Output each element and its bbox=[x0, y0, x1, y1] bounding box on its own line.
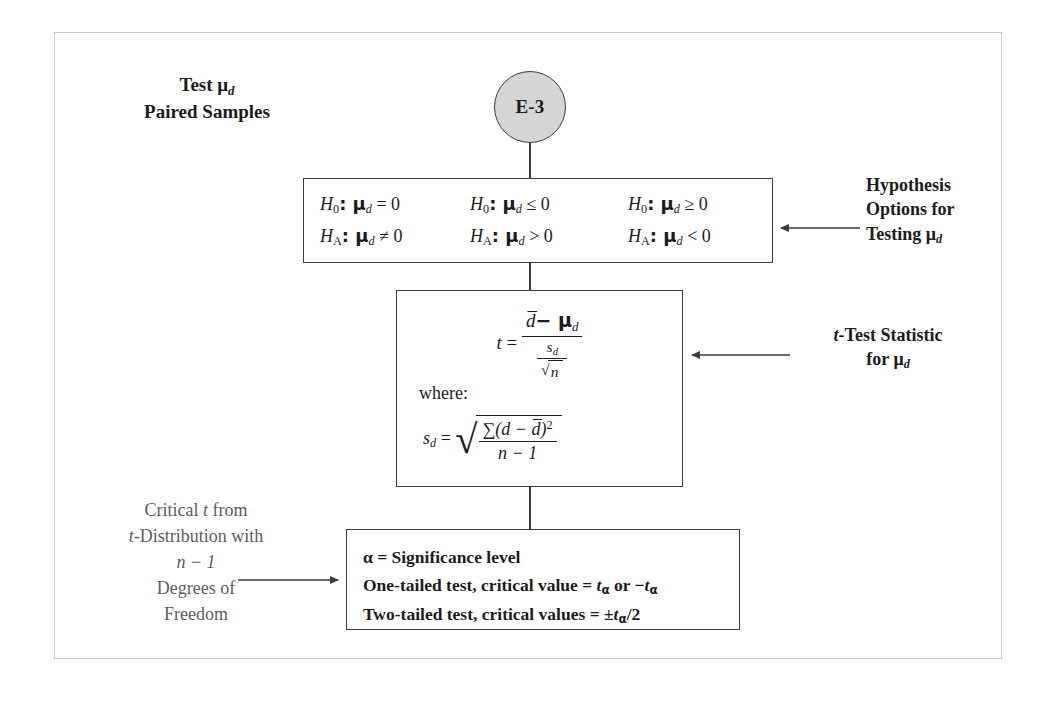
h-symbol: H bbox=[628, 194, 641, 214]
two-tailed-line: Two-tailed test, critical values = ±tα/2 bbox=[363, 600, 723, 629]
t-symbol: t bbox=[497, 332, 502, 353]
critical-annotation-line2: t-Distribution with bbox=[72, 524, 320, 550]
sd-fraction: ∑(d − d̅)2 n − 1 bbox=[479, 418, 557, 464]
h-sub: A bbox=[641, 234, 650, 248]
connector-hypothesis-to-formula bbox=[529, 262, 531, 292]
flow-title-mu-sub: d bbox=[228, 83, 234, 98]
hypothesis-column-two-tailed: H0: μd = 0 HA: μd ≠ 0 bbox=[320, 189, 448, 251]
critical-annotation-line1: Critical t from bbox=[72, 498, 320, 524]
start-node-circle[interactable]: E-3 bbox=[494, 71, 566, 143]
h-symbol: H bbox=[470, 226, 483, 246]
power-two: 2 bbox=[547, 418, 553, 432]
h-relation: > 0 bbox=[525, 226, 553, 246]
equals-sign: = bbox=[441, 428, 451, 448]
flow-title-line1: Test μd bbox=[92, 72, 322, 99]
h-sub: A bbox=[483, 234, 492, 248]
mu-sub: d bbox=[572, 319, 578, 334]
hypothesis-annotation-line1: Hypothesis bbox=[866, 173, 1016, 197]
testing-mu: Testing μ bbox=[866, 224, 936, 244]
flow-title-mu: Test μ bbox=[179, 74, 228, 95]
one-tailed-line: One-tailed test, critical value = tα or … bbox=[363, 571, 723, 600]
sd-symbol: s bbox=[423, 428, 430, 448]
t-fraction: d̅− μd sd √n bbox=[522, 309, 582, 381]
connector-formula-to-critical bbox=[529, 486, 531, 531]
sigma-expression: ∑(d − d̅) bbox=[483, 419, 547, 439]
divided-by-two: /2 bbox=[627, 604, 641, 624]
sd-sub: d bbox=[430, 436, 436, 450]
critical-annotation-line5: Freedom bbox=[72, 602, 320, 628]
se-numerator: sd bbox=[537, 338, 567, 359]
alt-hypothesis-1: HA: μd ≠ 0 bbox=[320, 221, 448, 252]
se-fraction: sd √n bbox=[537, 338, 567, 381]
null-hypothesis-1: H0: μd = 0 bbox=[320, 189, 448, 220]
critical-annotation: Critical t from t-Distribution with n − … bbox=[72, 498, 320, 628]
h-relation: ≤ 0 bbox=[522, 194, 550, 214]
hypothesis-annotation-line2: Options for bbox=[866, 197, 1016, 221]
flow-title: Test μd Paired Samples bbox=[92, 72, 322, 124]
two-tailed-text: Two-tailed test, critical values = ± bbox=[363, 604, 614, 624]
t-fraction-numerator: d̅− μd bbox=[522, 309, 582, 337]
hypothesis-column-upper-tailed: H0: μd ≤ 0 HA: μd > 0 bbox=[456, 189, 598, 251]
critical-value-box[interactable]: α = Significance level One-tailed test, … bbox=[346, 529, 740, 630]
sd-denominator: n − 1 bbox=[479, 442, 557, 464]
start-node-label: E-3 bbox=[515, 96, 544, 118]
tstat-annotation: t-Test Statistic for μd bbox=[798, 323, 978, 374]
tstat-annotation-line2: for μd bbox=[798, 347, 978, 373]
alpha-sub: α bbox=[601, 583, 609, 597]
h-body: : μ bbox=[492, 225, 519, 246]
t-statistic-formula: t = d̅− μd sd √n bbox=[397, 309, 682, 381]
significance-level-line: α = Significance level bbox=[363, 543, 723, 571]
radical-icon: √ bbox=[455, 426, 477, 454]
s-sub: d bbox=[553, 346, 558, 357]
h-body: : μ bbox=[342, 225, 369, 246]
h-symbol: H bbox=[320, 194, 333, 214]
h-body: : μ bbox=[650, 225, 677, 246]
mu-sub: d bbox=[904, 358, 910, 372]
sd-formula: sd = √ ∑(d − d̅)2 n − 1 bbox=[423, 415, 562, 464]
h-relation: < 0 bbox=[683, 226, 711, 246]
for-mu: for μ bbox=[866, 349, 903, 369]
critical-annotation-df: n − 1 bbox=[72, 550, 320, 576]
distribution-text: -Distribution with bbox=[134, 526, 264, 546]
alt-hypothesis-2: HA: μd > 0 bbox=[470, 221, 598, 252]
or-negative: or − bbox=[610, 575, 645, 595]
equals-sign: = bbox=[507, 332, 518, 353]
h-relation: = 0 bbox=[372, 194, 400, 214]
sd-numerator: ∑(d − d̅)2 bbox=[479, 418, 557, 442]
minus-mu: − μ bbox=[536, 309, 573, 331]
null-hypothesis-2: H0: μd ≤ 0 bbox=[470, 189, 598, 220]
h-sub: A bbox=[333, 234, 342, 248]
t-fraction-denominator: sd √n bbox=[522, 337, 582, 381]
alpha-sub: α bbox=[618, 613, 626, 627]
h-relation: ≥ 0 bbox=[680, 194, 708, 214]
where-label: where: bbox=[419, 383, 468, 404]
h-body: : μ bbox=[647, 193, 674, 214]
hypothesis-column-lower-tailed: H0: μd ≥ 0 HA: μd < 0 bbox=[606, 189, 756, 251]
se-denominator: √n bbox=[537, 359, 567, 381]
test-statistic-formula-box[interactable]: t = d̅− μd sd √n where: sd = √ ∑(d − d̅)… bbox=[396, 290, 683, 487]
alt-hypothesis-3: HA: μd < 0 bbox=[628, 221, 756, 252]
hypothesis-options-box[interactable]: H0: μd = 0 HA: μd ≠ 0 H0: μd ≤ 0 HA: μd … bbox=[303, 178, 773, 263]
tstat-annotation-line1: t-Test Statistic bbox=[798, 323, 978, 347]
h-symbol: H bbox=[628, 226, 641, 246]
one-tailed-text: One-tailed test, critical value = bbox=[363, 575, 597, 595]
diagram-canvas: Test μd Paired Samples E-3 H0: μd = 0 HA… bbox=[0, 0, 1051, 702]
alpha-sub: α bbox=[649, 583, 657, 597]
h-relation: ≠ 0 bbox=[375, 226, 403, 246]
critical-annotation-line4: Degrees of bbox=[72, 576, 320, 602]
h-symbol: H bbox=[470, 194, 483, 214]
hypothesis-annotation: Hypothesis Options for Testing μd bbox=[866, 173, 1016, 248]
h-body: : μ bbox=[339, 193, 366, 214]
null-hypothesis-3: H0: μd ≥ 0 bbox=[628, 189, 756, 220]
sd-radicand: ∑(d − d̅)2 n − 1 bbox=[476, 415, 562, 464]
tstat-annotation-text: -Test Statistic bbox=[839, 325, 943, 345]
connector-circle-to-hypothesis bbox=[529, 140, 531, 180]
from-text: from bbox=[208, 500, 248, 520]
d-bar: d̅ bbox=[526, 310, 536, 331]
h-body: : μ bbox=[489, 193, 516, 214]
flow-title-line2: Paired Samples bbox=[92, 99, 322, 124]
n-symbol: n bbox=[548, 360, 564, 381]
mu-sub: d bbox=[936, 232, 942, 246]
critical-text: Critical bbox=[145, 500, 203, 520]
hypothesis-annotation-line3: Testing μd bbox=[866, 222, 1016, 248]
